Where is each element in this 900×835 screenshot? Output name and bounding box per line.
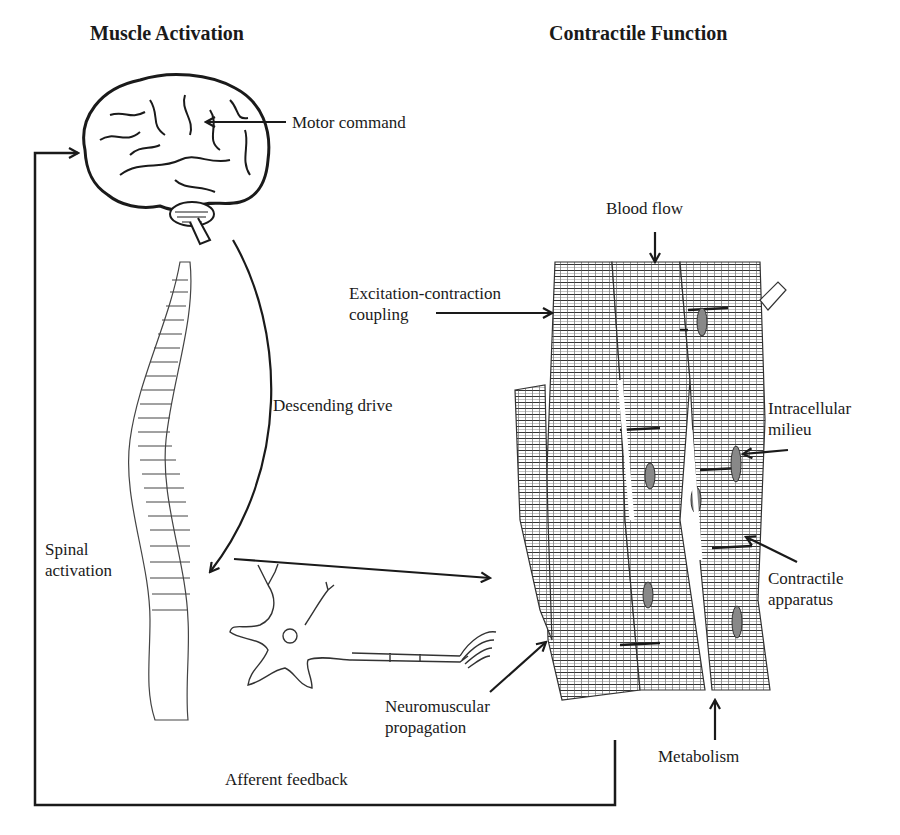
heading-contractile-function: Contractile Function <box>549 22 727 45</box>
label-motor-command: Motor command <box>292 112 406 133</box>
label-afferent-feedback: Afferent feedback <box>225 769 348 790</box>
label-intracellular-milieu: Intracellular milieu <box>768 398 851 440</box>
brain-icon <box>84 74 269 244</box>
label-neuromuscular-propagation: Neuromuscular propagation <box>385 696 490 738</box>
label-blood-flow: Blood flow <box>606 198 683 219</box>
label-metabolism: Metabolism <box>658 746 739 767</box>
neuromuscular-arrow <box>490 642 546 692</box>
muscle-fibers-icon <box>515 262 786 700</box>
descending-drive-arrow <box>210 240 271 572</box>
label-descending-drive: Descending drive <box>273 395 392 416</box>
label-excitation-contraction-coupling: Excitation-contraction coupling <box>349 283 501 325</box>
spinal-to-muscle-arrow <box>234 559 490 578</box>
neuron-icon <box>230 564 496 688</box>
heading-muscle-activation: Muscle Activation <box>90 22 244 45</box>
label-spinal-activation: Spinal activation <box>45 539 112 581</box>
spine-icon <box>129 262 191 720</box>
label-contractile-apparatus: Contractile apparatus <box>768 568 844 610</box>
